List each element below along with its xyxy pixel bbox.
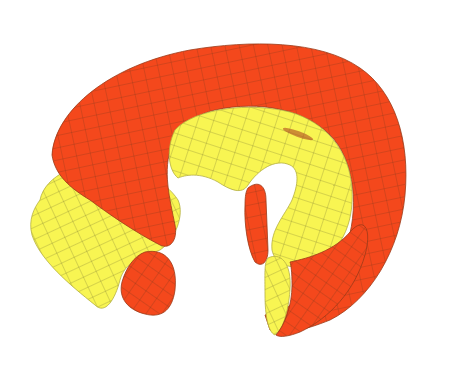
- surface-canvas: [0, 0, 457, 368]
- torus-figure: [0, 0, 457, 368]
- cut-red-strip: [245, 184, 268, 264]
